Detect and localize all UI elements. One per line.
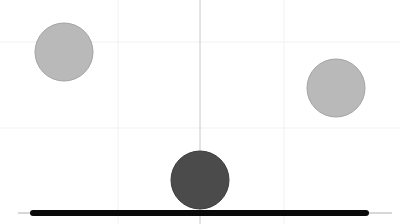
- left-ball[interactable]: [35, 23, 93, 81]
- right-ball[interactable]: [307, 59, 365, 117]
- player-ball[interactable]: [171, 151, 229, 209]
- game-canvas[interactable]: [0, 0, 400, 224]
